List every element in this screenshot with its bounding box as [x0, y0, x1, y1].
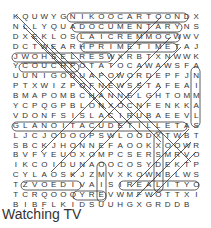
- grid-letter[interactable]: I: [49, 160, 59, 170]
- grid-letter[interactable]: F: [144, 101, 154, 111]
- grid-letter[interactable]: E: [135, 180, 145, 190]
- grid-letter[interactable]: H: [59, 141, 69, 151]
- grid-letter[interactable]: A: [192, 61, 202, 71]
- grid-letter[interactable]: Y: [49, 12, 59, 22]
- grid-letter[interactable]: P: [192, 160, 202, 170]
- grid-letter[interactable]: O: [68, 150, 78, 160]
- grid-letter[interactable]: Z: [59, 81, 69, 91]
- grid-letter[interactable]: O: [49, 170, 59, 180]
- grid-letter[interactable]: U: [30, 12, 40, 22]
- grid-letter[interactable]: B: [144, 111, 154, 121]
- grid-letter[interactable]: P: [11, 81, 21, 91]
- grid-letter[interactable]: B: [135, 52, 145, 62]
- grid-letter[interactable]: I: [116, 111, 126, 121]
- grid-letter[interactable]: A: [30, 121, 40, 131]
- grid-letter[interactable]: U: [78, 71, 88, 81]
- grid-letter[interactable]: I: [78, 12, 88, 22]
- grid-letter[interactable]: O: [30, 52, 40, 62]
- grid-letter[interactable]: E: [49, 150, 59, 160]
- grid-letter[interactable]: R: [154, 200, 164, 210]
- grid-letter[interactable]: W: [116, 71, 126, 81]
- grid-letter[interactable]: T: [21, 81, 31, 91]
- grid-letter[interactable]: Y: [40, 22, 50, 32]
- grid-letter[interactable]: M: [154, 42, 164, 52]
- grid-letter[interactable]: O: [78, 61, 88, 71]
- grid-letter[interactable]: W: [182, 52, 192, 62]
- grid-letter[interactable]: L: [21, 22, 31, 32]
- grid-letter[interactable]: Q: [40, 190, 50, 200]
- grid-letter[interactable]: H: [116, 200, 126, 210]
- grid-letter[interactable]: N: [11, 22, 21, 32]
- grid-letter[interactable]: S: [192, 121, 202, 131]
- grid-letter[interactable]: Y: [182, 180, 192, 190]
- grid-letter[interactable]: O: [59, 71, 69, 81]
- grid-letter[interactable]: J: [11, 52, 21, 62]
- grid-letter[interactable]: M: [163, 150, 173, 160]
- grid-letter[interactable]: O: [49, 190, 59, 200]
- grid-letter[interactable]: I: [40, 71, 50, 81]
- grid-letter[interactable]: O: [106, 12, 116, 22]
- grid-letter[interactable]: N: [173, 12, 183, 22]
- grid-letter[interactable]: T: [125, 121, 135, 131]
- grid-letter[interactable]: D: [182, 12, 192, 22]
- grid-letter[interactable]: O: [49, 131, 59, 141]
- grid-letter[interactable]: I: [116, 180, 126, 190]
- grid-letter[interactable]: K: [87, 12, 97, 22]
- grid-letter[interactable]: C: [163, 32, 173, 42]
- grid-letter[interactable]: B: [163, 170, 173, 180]
- grid-letter[interactable]: C: [21, 42, 31, 52]
- grid-letter[interactable]: O: [78, 81, 88, 91]
- grid-letter[interactable]: Y: [173, 22, 183, 32]
- grid-letter[interactable]: A: [87, 32, 97, 42]
- grid-letter[interactable]: D: [59, 160, 69, 170]
- grid-letter[interactable]: R: [87, 190, 97, 200]
- grid-letter[interactable]: R: [135, 12, 145, 22]
- grid-letter[interactable]: R: [125, 111, 135, 121]
- grid-letter[interactable]: K: [173, 160, 183, 170]
- grid-letter[interactable]: C: [106, 32, 116, 42]
- grid-letter[interactable]: W: [173, 32, 183, 42]
- grid-letter[interactable]: R: [30, 190, 40, 200]
- grid-letter[interactable]: S: [68, 32, 78, 42]
- grid-letter[interactable]: U: [68, 160, 78, 170]
- grid-letter[interactable]: C: [30, 131, 40, 141]
- grid-letter[interactable]: T: [173, 180, 183, 190]
- grid-letter[interactable]: A: [40, 170, 50, 180]
- grid-letter[interactable]: C: [21, 190, 31, 200]
- grid-letter[interactable]: V: [182, 150, 192, 160]
- grid-letter[interactable]: Q: [49, 22, 59, 32]
- grid-letter[interactable]: D: [144, 71, 154, 81]
- grid-letter[interactable]: O: [163, 12, 173, 22]
- grid-letter[interactable]: T: [182, 160, 192, 170]
- grid-letter[interactable]: U: [97, 121, 107, 131]
- grid-letter[interactable]: X: [78, 150, 88, 160]
- grid-letter[interactable]: A: [192, 101, 202, 111]
- grid-letter[interactable]: Z: [87, 170, 97, 180]
- grid-letter[interactable]: D: [78, 22, 88, 32]
- grid-letter[interactable]: O: [135, 141, 145, 151]
- grid-letter[interactable]: W: [182, 141, 192, 151]
- grid-letter[interactable]: E: [30, 32, 40, 42]
- grid-letter[interactable]: I: [11, 160, 21, 170]
- grid-letter[interactable]: C: [49, 61, 59, 71]
- grid-letter[interactable]: T: [11, 180, 21, 190]
- grid-letter[interactable]: T: [11, 190, 21, 200]
- grid-letter[interactable]: F: [173, 71, 183, 81]
- grid-letter[interactable]: T: [163, 91, 173, 101]
- grid-letter[interactable]: J: [192, 42, 202, 52]
- grid-letter[interactable]: L: [116, 131, 126, 141]
- grid-letter[interactable]: N: [163, 52, 173, 62]
- grid-letter[interactable]: V: [182, 111, 192, 121]
- grid-letter[interactable]: I: [49, 81, 59, 91]
- grid-letter[interactable]: N: [106, 91, 116, 101]
- grid-letter[interactable]: J: [40, 131, 50, 141]
- grid-letter[interactable]: L: [49, 32, 59, 42]
- grid-letter[interactable]: G: [144, 91, 154, 101]
- grid-letter[interactable]: E: [173, 81, 183, 91]
- grid-letter[interactable]: L: [30, 170, 40, 180]
- grid-letter[interactable]: X: [154, 131, 164, 141]
- grid-letter[interactable]: M: [192, 91, 202, 101]
- grid-letter[interactable]: N: [97, 101, 107, 111]
- grid-letter[interactable]: E: [49, 42, 59, 52]
- grid-letter[interactable]: I: [192, 190, 202, 200]
